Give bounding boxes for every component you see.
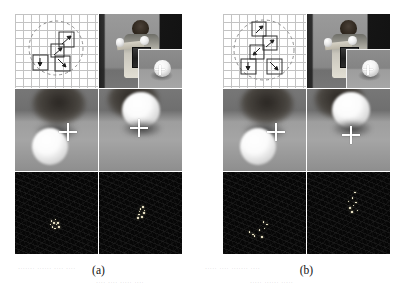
feature-response-left-b [223,172,306,254]
feature-point [53,222,55,224]
feature-point [57,222,59,224]
roi-overlay [15,14,98,88]
feature-point [58,226,60,228]
bleed-text: ..... ...... ..... [250,276,293,285]
closeup-scene [307,89,390,171]
feature-noise [307,172,390,254]
panel-grid-a [15,14,182,258]
feature-map [15,172,98,254]
camera-photo-a [99,14,182,88]
target-ball-right [140,36,149,45]
contact-shadow [122,120,162,136]
roi-overlay [223,14,306,88]
feature-point [137,217,139,219]
closeup-scene [223,89,306,171]
feature-response-right-b [307,172,390,254]
subfigure-caption-b: (b) [223,264,390,276]
grid-roi-diagram-b [223,14,306,88]
blurred-closeup-left-b [223,89,306,171]
blurred-closeup-right-b [307,89,390,171]
feature-noise [15,172,98,254]
figure-panel-group-a [15,14,182,258]
photo-scene [307,14,390,88]
inset-target-blob [154,60,171,78]
inset-target-blob [362,60,379,78]
feature-point [142,206,144,208]
feature-map [99,172,182,254]
bleed-text: .... .... ..... .... [96,276,144,285]
feature-response-right-a [99,172,182,254]
grid-roi-diagram-a [15,14,98,88]
bright-target-blob [240,128,277,166]
closeup-scene [15,89,98,171]
camera-photo-b [307,14,390,88]
figure-panel-group-b [223,14,390,258]
zoom-inset [346,49,390,88]
feature-noise [99,172,182,254]
panel-grid-b [223,14,390,258]
feature-point [351,211,353,213]
blurred-closeup-right-a [99,89,182,171]
target-ball-right [348,36,357,45]
feature-point [143,212,145,214]
feature-noise [223,172,306,254]
feature-point [141,216,143,218]
feature-point [355,202,357,204]
subfigure-caption-a: (a) [15,264,182,276]
feature-point [349,207,351,209]
bright-target-blob [32,128,69,166]
feature-point [52,226,54,228]
photo-scene [99,14,182,88]
target-ball-left [324,38,332,46]
feature-point [140,208,142,210]
feature-map [307,172,390,254]
blurred-closeup-left-a [15,89,98,171]
feature-point [261,236,263,238]
zoom-inset [138,49,182,88]
feature-point [266,224,268,226]
figure-root: ....... ...... .... .... ..... .... ....… [0,0,401,293]
target-ball-left [116,38,124,46]
feature-map [223,172,306,254]
closeup-scene [99,89,182,171]
contact-shadow [332,120,372,136]
feature-response-left-a [15,172,98,254]
